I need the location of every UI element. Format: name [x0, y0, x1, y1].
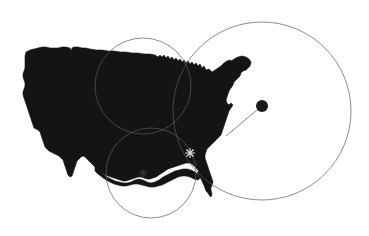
gulf-faint-marker[interactable]	[140, 170, 147, 177]
usa-landmass-group	[23, 47, 251, 197]
map-figure	[0, 0, 369, 236]
offshore-node-dot[interactable]	[256, 100, 268, 112]
usa-silhouette	[23, 47, 251, 193]
connector-offshore-to-coast	[226, 110, 257, 136]
southeast-star-marker[interactable]	[186, 149, 195, 158]
map-canvas	[0, 0, 369, 236]
